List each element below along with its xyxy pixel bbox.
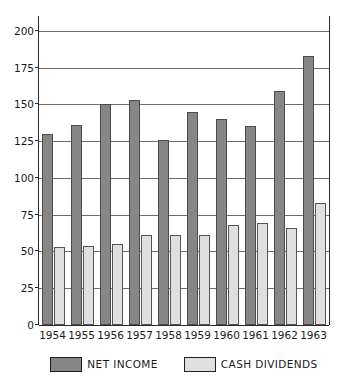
bar [71,125,82,325]
bar-group [303,16,326,325]
bar [274,91,285,325]
x-tick-label: 1954 [39,330,66,341]
x-tick-label: 1962 [271,330,298,341]
bar [286,228,297,325]
bar [228,225,239,325]
legend-label: NET INCOME [87,359,157,370]
y-tick-label: 175 [14,62,34,73]
bar [245,126,256,325]
bar-group [71,16,94,325]
bar-group [129,16,152,325]
x-tick-label: 1958 [155,330,182,341]
bar [187,112,198,325]
x-tick-label: 1955 [68,330,95,341]
bar-group [245,16,268,325]
bar-group [100,16,123,325]
bar-group [187,16,210,325]
bar-chart: 0255075100125150175200 19541955195619571… [0,0,347,387]
y-tick-label: 125 [14,136,34,147]
legend-label: CASH DIVIDENDS [221,359,318,370]
bar [54,247,65,325]
bar-group [42,16,65,325]
bar [112,244,123,325]
legend-item: NET INCOME [50,357,157,372]
bar-group [216,16,239,325]
bar [303,56,314,325]
bar [315,203,326,325]
legend-swatch-icon [50,357,82,372]
bar [216,119,227,325]
axis-baseline [39,325,329,326]
legend-item: CASH DIVIDENDS [184,357,318,372]
x-tick-label: 1959 [184,330,211,341]
bar [42,134,53,325]
y-tick-label: 150 [14,99,34,110]
bar [158,140,169,325]
legend-swatch-icon [184,357,216,372]
y-tick-label: 0 [27,320,34,331]
plot-area: 0255075100125150175200 [38,16,330,325]
bar [170,235,181,325]
bar [141,235,152,325]
x-tick-label: 1957 [126,330,153,341]
bar-group [274,16,297,325]
chart-legend: NET INCOMECASH DIVIDENDS [38,352,330,376]
bar [83,246,94,325]
y-tick-label: 75 [21,209,34,220]
x-tick-label: 1961 [242,330,269,341]
bar-group [158,16,181,325]
x-axis-labels: 1954195519561957195819591960196119621963 [38,330,330,346]
bar [199,235,210,325]
x-tick-label: 1960 [213,330,240,341]
bar [129,100,140,325]
y-tick-label: 25 [21,283,34,294]
bar [100,104,111,325]
x-tick-label: 1956 [97,330,124,341]
x-tick-label: 1963 [300,330,327,341]
y-tick-label: 100 [14,173,34,184]
y-tick-label: 50 [21,246,34,257]
y-tick-label: 200 [14,25,34,36]
bars-layer [39,16,329,325]
bar [257,223,268,325]
